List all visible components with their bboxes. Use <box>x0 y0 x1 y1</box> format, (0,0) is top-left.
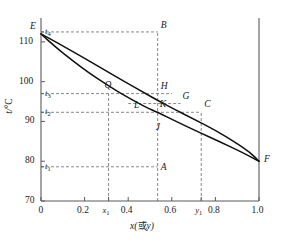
x-tick-label-y₁: y1 <box>195 206 202 217</box>
y-minor-label-t₁: t1 <box>45 162 51 173</box>
y-minor-label-t₄: t4 <box>45 27 51 38</box>
point-label-A: A <box>161 163 167 173</box>
point-label-K: K <box>160 100 166 110</box>
y-tick-label-1: 80 <box>25 156 35 166</box>
point-label-H: H <box>161 82 168 92</box>
x-tick-label-0.2: 0.2 <box>77 206 89 216</box>
point-label-G: G <box>183 92 190 102</box>
point-label-C: C <box>204 100 210 110</box>
x-tick-label-1.0: 1.0 <box>252 206 264 216</box>
x-tick-label-x₁: x1 <box>103 206 110 217</box>
y-tick-label-2: 90 <box>25 116 35 126</box>
point-label-J: J <box>156 123 160 133</box>
x-tick-label-0.4: 0.4 <box>121 206 133 216</box>
y-minor-label-t₃: t3 <box>45 89 51 100</box>
y-axis-title: t/°C <box>4 84 14 128</box>
y-tick-label-3: 100 <box>19 77 33 87</box>
point-label-F: F <box>264 155 270 165</box>
y-tick-label-4: 110 <box>19 37 33 47</box>
vapour-line <box>41 34 259 161</box>
point-label-B: B <box>161 21 167 31</box>
x-tick-label-0: 0 <box>39 206 44 216</box>
phase-diagram-figure: t/°C x(或y) 708090100110t4t3t2t100.2x10.4… <box>0 0 284 246</box>
y-tick-label-0: 70 <box>25 196 35 206</box>
liquid-line <box>41 34 259 161</box>
point-label-L: L <box>134 101 139 111</box>
x-tick-label-0.8: 0.8 <box>208 206 220 216</box>
x-tick-label-0.6: 0.6 <box>164 206 176 216</box>
point-label-E: E <box>30 22 36 32</box>
y-minor-label-t₂: t2 <box>45 107 51 118</box>
point-label-Q: Q <box>105 81 112 91</box>
x-axis-title: x(或y) <box>0 222 284 232</box>
